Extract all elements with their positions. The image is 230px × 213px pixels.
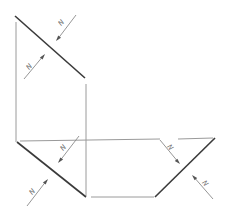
planes <box>15 16 215 197</box>
normal-force-arrow: N <box>27 179 48 206</box>
normal-force-arrow: N <box>192 175 213 199</box>
normal-force-diagram: N N N N N N <box>0 0 230 213</box>
normal-force-arrow: N <box>56 15 76 41</box>
force-label: N <box>25 62 35 72</box>
normal-force-arrow: N <box>24 54 45 79</box>
top-horizontal-edge-a <box>20 139 160 141</box>
lower-left-plane <box>17 142 86 197</box>
force-label: N <box>200 179 210 189</box>
force-label: N <box>28 187 38 197</box>
top-horizontal-edge-b <box>178 138 213 139</box>
arrowhead-icon <box>175 159 180 164</box>
force-label: N <box>165 143 175 153</box>
upper-left-plane <box>15 16 85 78</box>
lower-right-plane <box>155 138 215 197</box>
force-label: N <box>57 18 67 28</box>
construction-edges <box>16 22 213 197</box>
normal-force-arrow: N <box>160 140 180 164</box>
force-vectors: N N N N N N <box>24 15 213 206</box>
